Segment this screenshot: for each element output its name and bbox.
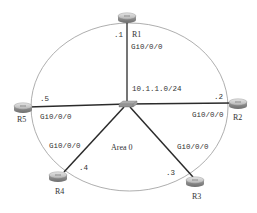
r3-name-label: R3 [192, 193, 201, 201]
link-r2 [127, 103, 232, 104]
router-icon-r3[interactable] [186, 177, 204, 187]
link-r5 [28, 104, 127, 107]
r4-host-label: .4 [79, 165, 88, 173]
r2-name-label: R2 [233, 114, 242, 122]
r5-interface-label: Gi0/0/0 [40, 114, 72, 122]
r4-interface-label: Gi0/0/0 [49, 143, 81, 151]
r4-name-label: R4 [55, 188, 64, 196]
router-icon-r5[interactable] [14, 103, 32, 113]
router-icon-r2[interactable] [229, 99, 247, 109]
r3-host-label: .3 [166, 170, 175, 178]
link-r4 [64, 107, 124, 172]
switch-icon[interactable] [119, 101, 137, 107]
router-icon-r4[interactable] [49, 172, 67, 182]
r1-interface-label: Gi0/0/0 [131, 44, 163, 52]
r1-name-label: R1 [132, 31, 141, 39]
r5-name-label: R5 [17, 116, 26, 124]
area-label: Area 0 [111, 144, 133, 152]
router-icon-r1[interactable] [118, 13, 136, 23]
topology-canvas [0, 0, 257, 213]
r1-host-label: .1 [114, 32, 123, 40]
r2-host-label: .2 [214, 94, 223, 102]
r2-interface-label: Gi0/0/0 [192, 112, 224, 120]
r5-host-label: .5 [40, 96, 49, 104]
network-label: 10.1.1.0/24 [132, 86, 182, 94]
r3-interface-label: Gi0/0/0 [177, 144, 209, 152]
link-r3 [130, 107, 193, 177]
